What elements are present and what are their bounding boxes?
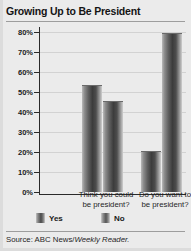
category-line-1: Think you could <box>73 190 139 200</box>
legend-item-yes: Yes <box>36 213 63 223</box>
category-line-2: be president? <box>132 200 191 210</box>
source-divider <box>6 231 185 232</box>
x-axis-category-labels: Think you couldbe president?Do you want … <box>0 190 191 212</box>
y-axis-tick-label: 80% <box>0 28 33 37</box>
page-title: Growing Up to Be President <box>6 5 140 17</box>
x-axis-category-2: Do you want tobe president? <box>132 190 191 210</box>
chart-legend: YesNo <box>0 213 191 226</box>
y-axis-labels: 0%10%20%30%40%50%60%70%80% <box>0 32 33 192</box>
y-axis-tick-label: 30% <box>0 128 33 137</box>
legend-swatch-yes <box>36 213 45 223</box>
y-axis-tick-label: 20% <box>0 148 33 157</box>
bar-no-group2 <box>162 33 182 192</box>
legend-swatch-no <box>101 213 110 223</box>
chart-plot-area: 0%10%20%30%40%50%60%70%80% <box>0 24 191 189</box>
chart-card: Growing Up to Be President 0%10%20%30%40… <box>0 0 191 251</box>
y-axis-tick-label: 40% <box>0 108 33 117</box>
bar-yes-group1 <box>82 85 102 192</box>
source-prefix: Source: ABC News/ <box>6 235 74 244</box>
category-line-1: Do you want to <box>132 190 191 200</box>
y-axis-tick-label: 60% <box>0 68 33 77</box>
y-axis-tick-label: 10% <box>0 168 33 177</box>
legend-item-no: No <box>101 213 125 223</box>
title-divider <box>6 21 185 22</box>
legend-label-no: No <box>114 214 125 223</box>
x-axis-category-1: Think you couldbe president? <box>73 190 139 210</box>
y-axis-tick-label: 50% <box>0 88 33 97</box>
bars-container <box>40 32 186 192</box>
source-publication: Weekly Reader. <box>74 235 129 244</box>
bar-no-group1 <box>103 101 123 192</box>
y-axis-tick-label: 70% <box>0 48 33 57</box>
bar-yes-group2 <box>141 151 161 192</box>
source-note: Source: ABC News/Weekly Reader. <box>6 235 130 244</box>
legend-label-yes: Yes <box>49 214 63 223</box>
category-line-2: be president? <box>73 200 139 210</box>
